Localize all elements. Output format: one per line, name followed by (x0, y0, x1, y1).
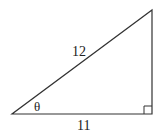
right-triangle (12, 10, 152, 114)
hypotenuse-label: 12 (72, 44, 86, 59)
right-angle-marker (144, 106, 152, 114)
adjacent-label: 11 (77, 118, 90, 132)
angle-label: θ (34, 99, 40, 114)
triangle-diagram: 12 θ 11 (0, 0, 160, 132)
